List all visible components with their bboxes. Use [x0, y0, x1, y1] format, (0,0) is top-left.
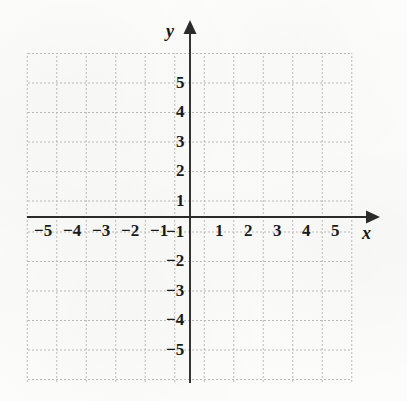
x-tick-label-2: 2 [244, 222, 253, 239]
y-tick-label-neg4: −4 [166, 311, 184, 328]
coordinate-plane-svg [0, 0, 407, 401]
x-tick-label-4: 4 [302, 222, 311, 239]
coordinate-grid-figure: −5 −4 −3 −2 −1 1 2 3 4 5 5 4 3 2 1 −1 −2… [0, 0, 407, 401]
y-tick-label-2: 2 [176, 162, 185, 179]
y-tick-label-neg5: −5 [166, 341, 184, 358]
y-tick-label-neg3: −3 [166, 282, 184, 299]
x-tick-label-neg2: −2 [121, 222, 139, 239]
x-tick-label-neg4: −4 [63, 222, 81, 239]
x-tick-label-neg3: −3 [92, 222, 110, 239]
x-tick-label-1: 1 [215, 222, 224, 239]
y-tick-label-5: 5 [176, 74, 185, 91]
x-tick-label-5: 5 [331, 222, 340, 239]
x-tick-label-3: 3 [273, 222, 282, 239]
x-axis-arrowhead [366, 211, 380, 224]
x-axis-label: x [362, 224, 371, 242]
y-tick-label-3: 3 [176, 133, 185, 150]
y-tick-label-4: 4 [176, 103, 185, 120]
y-tick-label-neg2: −2 [166, 252, 184, 269]
y-tick-label-1: 1 [176, 192, 185, 209]
y-tick-label-neg1: −1 [166, 223, 184, 240]
x-tick-label-neg5: −5 [34, 222, 52, 239]
y-axis-label: y [166, 22, 174, 40]
y-axis-arrowhead [184, 20, 197, 34]
